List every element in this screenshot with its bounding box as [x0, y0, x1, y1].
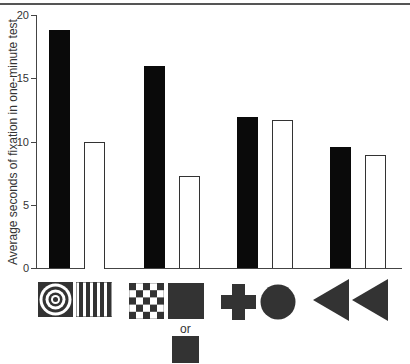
triangle-left-icon: [313, 279, 349, 321]
plain-square-icon: [168, 283, 204, 319]
bar-left-stimulus: [330, 147, 351, 268]
small-plain-square-icon: [172, 336, 199, 363]
y-tick: [31, 142, 36, 143]
triangle-left-icon: [352, 279, 388, 321]
y-tick-label: 0: [3, 262, 29, 274]
y-tick-label: 15: [3, 72, 29, 84]
y-tick: [31, 78, 36, 79]
bar-right-stimulus: [179, 176, 200, 268]
bar-left-stimulus: [49, 30, 70, 268]
checkerboard-icon: [129, 283, 164, 319]
y-tick: [31, 15, 36, 16]
bar-left-stimulus: [144, 66, 165, 268]
y-tick-label: 5: [3, 199, 29, 211]
or-label: or: [180, 322, 191, 336]
y-axis: [36, 15, 37, 268]
vertical-stripes-icon: [76, 282, 112, 317]
y-tick-label: 20: [3, 9, 29, 21]
bar-right-stimulus: [365, 155, 386, 268]
circle-icon: [260, 284, 296, 320]
bar-right-stimulus: [272, 120, 293, 268]
bar-left-stimulus: [237, 117, 258, 268]
bar-right-stimulus: [84, 142, 105, 269]
top-rule: [0, 3, 410, 5]
y-tick-label: 10: [3, 136, 29, 148]
y-tick: [31, 205, 36, 206]
cross-icon: [221, 284, 256, 320]
bullseye-icon: [38, 282, 73, 317]
y-tick: [31, 268, 36, 269]
